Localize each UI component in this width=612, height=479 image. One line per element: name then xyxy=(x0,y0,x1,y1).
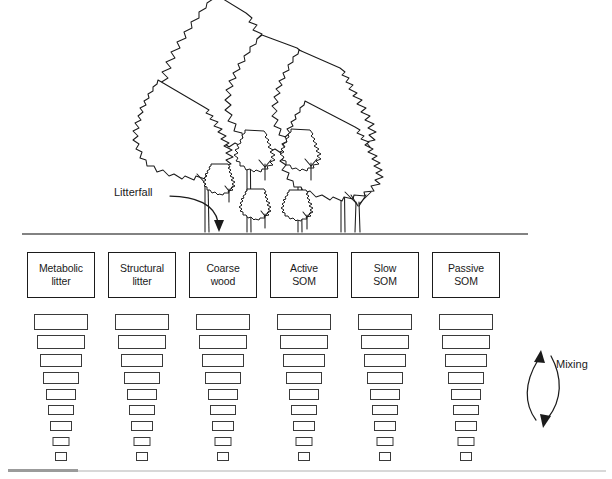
soil-layer-passive-som-4[interactable] xyxy=(448,372,484,384)
soil-layer-structural-litter-7[interactable] xyxy=(131,421,153,431)
pool-header-active-som[interactable]: ActiveSOM xyxy=(270,252,338,298)
soil-layer-structural-litter-9[interactable] xyxy=(136,452,148,461)
soil-layer-coarse-wood-6[interactable] xyxy=(210,405,236,415)
soil-layer-structural-litter-2[interactable] xyxy=(118,335,166,349)
soil-layer-passive-som-1[interactable] xyxy=(439,314,493,330)
pool-header-structural-litter[interactable]: Structurallitter xyxy=(108,252,176,298)
soil-layer-slow-som-8[interactable] xyxy=(377,437,394,446)
pool-label-line2: SOM xyxy=(292,275,316,288)
soil-layer-coarse-wood-4[interactable] xyxy=(205,372,241,384)
soil-layer-slow-som-5[interactable] xyxy=(370,389,400,400)
soil-layer-active-som-5[interactable] xyxy=(289,389,319,400)
soil-layer-metabolic-litter-3[interactable] xyxy=(40,354,82,367)
soil-layer-slow-som-1[interactable] xyxy=(358,314,412,330)
soil-layer-active-som-9[interactable] xyxy=(298,452,310,461)
soil-layer-metabolic-litter-6[interactable] xyxy=(48,405,74,415)
soil-layer-coarse-wood-3[interactable] xyxy=(202,354,244,367)
soil-layer-coarse-wood-9[interactable] xyxy=(217,452,229,461)
soil-layer-slow-som-4[interactable] xyxy=(367,372,403,384)
soil-layer-coarse-wood-5[interactable] xyxy=(208,389,238,400)
soil-layer-active-som-1[interactable] xyxy=(277,314,331,330)
soil-layer-coarse-wood-8[interactable] xyxy=(215,437,232,446)
soil-layer-coarse-wood-7[interactable] xyxy=(212,421,234,431)
soil-layer-structural-litter-5[interactable] xyxy=(127,389,157,400)
pool-label-line1: Structural xyxy=(120,262,164,275)
pool-label-line2: SOM xyxy=(454,275,478,288)
soil-layer-slow-som-7[interactable] xyxy=(374,421,396,431)
soil-layer-active-som-8[interactable] xyxy=(296,437,313,446)
soil-layer-metabolic-litter-2[interactable] xyxy=(37,335,85,349)
soil-layer-metabolic-litter-9[interactable] xyxy=(55,452,67,461)
soil-layer-active-som-4[interactable] xyxy=(286,372,322,384)
soil-layer-passive-som-6[interactable] xyxy=(453,405,479,415)
pool-label-line1: Slow xyxy=(374,262,396,275)
soil-carbon-pool-diagram: MetaboliclitterStructurallitterCoarsewoo… xyxy=(0,0,612,479)
soil-layer-metabolic-litter-4[interactable] xyxy=(43,372,79,384)
soil-layer-structural-litter-8[interactable] xyxy=(134,437,151,446)
soil-layer-slow-som-6[interactable] xyxy=(372,405,398,415)
pool-label-line1: Metabolic xyxy=(39,262,83,275)
pool-label-line1: Passive xyxy=(448,262,484,275)
pool-label-line2: litter xyxy=(51,275,70,288)
soil-layer-coarse-wood-2[interactable] xyxy=(199,335,247,349)
soil-layer-active-som-7[interactable] xyxy=(293,421,315,431)
pool-header-passive-som[interactable]: PassiveSOM xyxy=(432,252,500,298)
soil-layer-structural-litter-4[interactable] xyxy=(124,372,160,384)
soil-layer-coarse-wood-1[interactable] xyxy=(196,314,250,330)
soil-layer-passive-som-8[interactable] xyxy=(458,437,475,446)
pool-label-line2: SOM xyxy=(373,275,397,288)
soil-layer-passive-som-2[interactable] xyxy=(442,335,490,349)
litterfall-label: Litterfall xyxy=(114,186,153,198)
soil-layer-metabolic-litter-5[interactable] xyxy=(46,389,76,400)
pool-header-slow-som[interactable]: SlowSOM xyxy=(351,252,419,298)
pool-label-line2: litter xyxy=(132,275,151,288)
soil-layer-structural-litter-3[interactable] xyxy=(121,354,163,367)
soil-layer-metabolic-litter-7[interactable] xyxy=(50,421,72,431)
soil-layer-passive-som-3[interactable] xyxy=(445,354,487,367)
pool-label-line2: wood xyxy=(211,275,236,288)
soil-layer-passive-som-9[interactable] xyxy=(460,452,472,461)
pool-label-line1: Active xyxy=(290,262,318,275)
soil-layer-structural-litter-1[interactable] xyxy=(115,314,169,330)
pool-columns: MetaboliclitterStructurallitterCoarsewoo… xyxy=(0,0,612,479)
bottom-scrollbar-track[interactable] xyxy=(78,470,606,472)
soil-layer-slow-som-2[interactable] xyxy=(361,335,409,349)
soil-layer-structural-litter-6[interactable] xyxy=(129,405,155,415)
soil-layer-passive-som-7[interactable] xyxy=(455,421,477,431)
soil-layer-active-som-6[interactable] xyxy=(291,405,317,415)
soil-layer-metabolic-litter-1[interactable] xyxy=(34,314,88,330)
soil-layer-slow-som-3[interactable] xyxy=(364,354,406,367)
mixing-label: Mixing xyxy=(556,358,588,370)
bottom-scrollbar-thumb[interactable] xyxy=(8,469,78,472)
soil-layer-slow-som-9[interactable] xyxy=(379,452,391,461)
pool-label-line1: Coarse xyxy=(206,262,239,275)
soil-layer-active-som-3[interactable] xyxy=(283,354,325,367)
pool-header-metabolic-litter[interactable]: Metaboliclitter xyxy=(27,252,95,298)
soil-layer-passive-som-5[interactable] xyxy=(451,389,481,400)
soil-layer-active-som-2[interactable] xyxy=(280,335,328,349)
soil-layer-metabolic-litter-8[interactable] xyxy=(53,437,70,446)
pool-header-coarse-wood[interactable]: Coarsewood xyxy=(189,252,257,298)
